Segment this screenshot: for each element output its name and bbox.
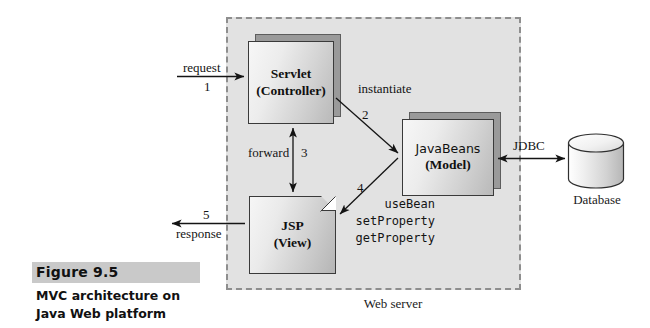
node-javabeans-model: JavaBeans (Model) <box>402 119 494 196</box>
servlet-subtitle: (Controller) <box>256 83 325 100</box>
servlet-title: Servlet <box>271 66 311 83</box>
label-jdbc: JDBC <box>513 138 545 154</box>
label-step-3: 3 <box>301 145 308 161</box>
label-bean-method-calls: useBeansetPropertygetProperty <box>341 196 435 247</box>
javabeans-subtitle: (Model) <box>425 157 471 174</box>
database-label: Database <box>556 192 638 208</box>
javabeans-face: JavaBeans (Model) <box>402 119 494 196</box>
web-server-label: Web server <box>333 296 453 312</box>
label-response: response <box>176 226 222 242</box>
javabeans-title: JavaBeans <box>416 141 481 157</box>
database-cylinder-icon <box>567 133 625 189</box>
node-servlet-controller: Servlet (Controller) <box>248 41 334 124</box>
figure-mvc-architecture: Web server Servlet (Controller) JavaBean… <box>0 0 650 328</box>
servlet-face: Servlet (Controller) <box>248 41 334 124</box>
jsp-label-group: JSP (View) <box>249 196 336 274</box>
label-step-5: 5 <box>203 207 210 223</box>
label-step-4: 4 <box>357 180 364 196</box>
label-step-1: 1 <box>204 79 211 95</box>
figure-number: Figure 9.5 <box>32 262 200 283</box>
figure-caption-text: MVC architecture on Java Web platform <box>32 283 200 323</box>
label-step-2: 2 <box>362 107 369 123</box>
jsp-title: JSP <box>281 218 304 235</box>
node-jsp-view: JSP (View) <box>249 196 336 274</box>
label-instantiate: instantiate <box>358 81 411 97</box>
label-forward: forward <box>248 145 289 161</box>
label-request: request <box>183 60 221 76</box>
figure-caption: Figure 9.5 MVC architecture on Java Web … <box>32 262 200 323</box>
jsp-subtitle: (View) <box>274 235 312 252</box>
